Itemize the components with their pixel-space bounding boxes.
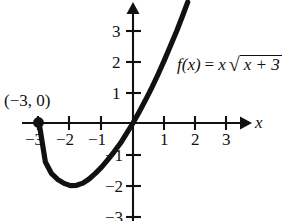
x-tick-label-neg2: −2 [56, 131, 74, 148]
radical-vinculum [240, 55, 282, 56]
graph-canvas [0, 0, 301, 221]
y-tick-label-3: 3 [112, 23, 121, 40]
y-tick-label-neg3: −3 [105, 209, 123, 221]
x-tick-label-neg1: −1 [88, 131, 106, 148]
endpoint-marker-dot [33, 117, 44, 128]
function-equation: f(x)=x √ x + 3 [177, 54, 280, 73]
square-root-icon: √ [229, 54, 240, 74]
x-tick-label-3: 3 [222, 131, 231, 148]
equation-equals: = [205, 55, 215, 74]
y-tick-label-neg1: −1 [105, 147, 123, 164]
equation-coefficient: x [218, 55, 226, 74]
x-tick-label-neg3: −3 [25, 131, 43, 148]
y-axis-arrowhead [127, 2, 140, 14]
x-tick-label-2: 2 [191, 131, 200, 148]
x-axis-label: x [255, 114, 263, 131]
endpoint-coordinate-label: (−3, 0) [4, 92, 50, 109]
function-graph-figure: −3 −2 −1 1 2 3 3 2 1 −1 −2 −3 x (−3, 0) … [0, 0, 301, 221]
radical-sign-group: √ x + 3 [229, 54, 280, 73]
x-axis-arrowhead [240, 117, 252, 130]
x-tick-label-1: 1 [160, 131, 169, 148]
equation-lhs: f(x) [177, 55, 201, 74]
y-tick-label-neg2: −2 [105, 178, 123, 195]
y-tick-label-1: 1 [112, 85, 121, 102]
y-tick-label-2: 2 [112, 54, 121, 71]
